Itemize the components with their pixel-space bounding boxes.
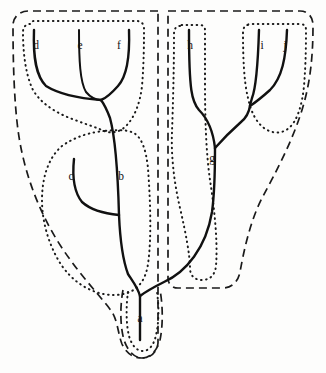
figure-root: d e f h i j c b g a <box>0 0 326 373</box>
figure-caption <box>0 360 326 373</box>
tip-label-b: b <box>118 170 124 182</box>
branch-right-clade-g <box>140 148 215 296</box>
branch-f <box>101 30 129 100</box>
tip-label-d: d <box>33 39 39 51</box>
branch-g-to-h <box>189 30 215 148</box>
branch-j <box>250 30 287 106</box>
dotted-outline-bc-group <box>42 130 150 295</box>
dotted-outline-def-group <box>23 21 144 132</box>
tip-label-c: c <box>68 170 73 182</box>
branch-c <box>73 159 119 215</box>
branch-b-to-def-node <box>101 100 119 215</box>
dashed-outline-root-stem <box>121 290 162 358</box>
branch-left-clade-b <box>119 215 140 296</box>
branch-i <box>250 30 259 106</box>
tip-label-i: i <box>260 39 263 51</box>
tip-label-e: e <box>77 39 82 51</box>
tip-label-a: a <box>137 312 142 324</box>
tip-label-j: j <box>282 39 286 52</box>
branch-g-to-ij-node <box>215 106 250 148</box>
tip-label-f: f <box>117 39 121 51</box>
tip-label-h: h <box>187 39 193 51</box>
dotted-outline-ij-group <box>243 24 306 133</box>
branch-d <box>34 30 101 100</box>
cladogram-diagram: d e f h i j c b g a <box>0 0 326 373</box>
tip-label-g: g <box>209 152 215 165</box>
